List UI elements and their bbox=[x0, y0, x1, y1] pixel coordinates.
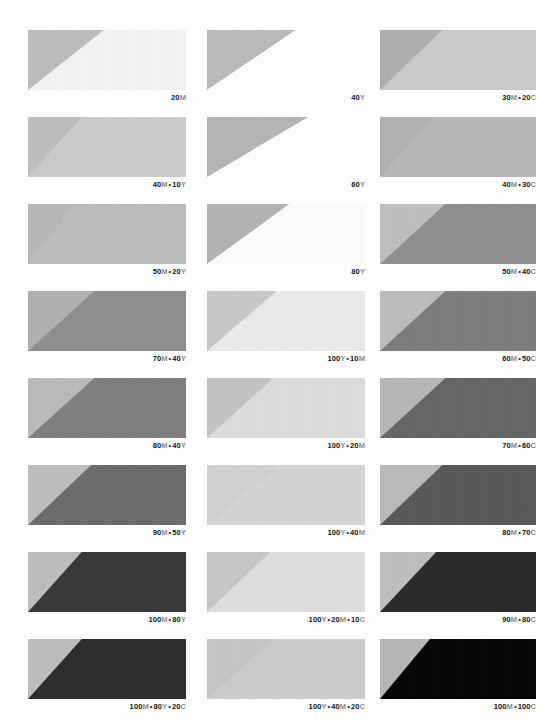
swatch-patch[interactable] bbox=[28, 291, 186, 351]
swatch-label: 80Y bbox=[207, 267, 365, 277]
swatch-cell[interactable]: 60Y bbox=[207, 117, 365, 190]
swatch-cell[interactable]: 100Y•20M bbox=[207, 378, 365, 451]
swatch-label: 50M•20Y bbox=[28, 267, 186, 277]
label-percent: 40 bbox=[351, 93, 360, 102]
swatch-label: 90M•50Y bbox=[28, 528, 186, 538]
label-percent: 40 bbox=[331, 702, 340, 711]
label-percent: 70 bbox=[502, 441, 511, 450]
swatch-patch[interactable] bbox=[28, 204, 186, 264]
swatch-cell[interactable]: 50M•40C bbox=[380, 204, 536, 277]
label-ink-letter: M bbox=[359, 354, 365, 363]
swatch-cell[interactable]: 40M•10Y bbox=[28, 117, 186, 190]
swatch-cell[interactable]: 40M•30C bbox=[380, 117, 536, 190]
swatch-label: 40M•10Y bbox=[28, 180, 186, 190]
swatch-cell[interactable]: 50M•20Y bbox=[28, 204, 186, 277]
swatch-patch[interactable] bbox=[380, 465, 536, 525]
swatch-cell[interactable]: 100Y•10M bbox=[207, 291, 365, 364]
swatch-patch[interactable] bbox=[207, 204, 365, 264]
swatch-patch[interactable] bbox=[207, 117, 365, 177]
label-percent: 100 bbox=[327, 441, 340, 450]
swatch-patch[interactable] bbox=[207, 378, 365, 438]
swatch-patch[interactable] bbox=[380, 378, 536, 438]
swatch-patch[interactable] bbox=[207, 465, 365, 525]
label-percent: 80 bbox=[172, 615, 181, 624]
swatch-label: 40M•30C bbox=[380, 180, 536, 190]
swatch-patch[interactable] bbox=[380, 117, 536, 177]
swatch-label: 80M•40Y bbox=[28, 441, 186, 451]
swatch-cell[interactable]: 70M•40Y bbox=[28, 291, 186, 364]
label-percent: 100 bbox=[309, 702, 322, 711]
swatch-label: 100Y•40M•20C bbox=[207, 702, 365, 712]
label-percent: 50 bbox=[502, 267, 511, 276]
label-ink-letter: Y bbox=[181, 615, 186, 624]
swatch-cell[interactable]: 90M•80C bbox=[380, 552, 536, 625]
label-percent: 10 bbox=[350, 354, 359, 363]
swatch-patch[interactable] bbox=[207, 30, 365, 90]
label-percent: 100 bbox=[327, 528, 340, 537]
chart-page: 20M40Y30M•20C40M•10Y60Y40M•30C50M•20Y80Y… bbox=[0, 0, 553, 727]
swatch-cell[interactable]: 100M•80Y•20C bbox=[28, 639, 186, 712]
swatch-patch[interactable] bbox=[28, 117, 186, 177]
label-ink-letter: Y bbox=[360, 267, 365, 276]
swatch-cell[interactable]: 40Y bbox=[207, 30, 365, 103]
label-percent: 100 bbox=[148, 615, 161, 624]
swatch-patch[interactable] bbox=[28, 465, 186, 525]
label-ink-letter: C bbox=[530, 441, 536, 450]
swatch-label: 100M•80Y•20C bbox=[28, 702, 186, 712]
label-ink-letter: M bbox=[161, 180, 167, 189]
label-percent: 50 bbox=[153, 267, 162, 276]
label-percent: 90 bbox=[502, 615, 511, 624]
label-ink-letter: Y bbox=[181, 267, 186, 276]
swatch-patch[interactable] bbox=[380, 552, 536, 612]
label-ink-letter: M bbox=[161, 441, 167, 450]
swatch-cell[interactable]: 100M•100C bbox=[380, 639, 536, 712]
swatch-cell[interactable]: 70M•60C bbox=[380, 378, 536, 451]
swatch-label: 90M•80C bbox=[380, 615, 536, 625]
label-ink-letter: C bbox=[530, 267, 536, 276]
swatch-cell[interactable]: 90M•50Y bbox=[28, 465, 186, 538]
label-ink-letter: M bbox=[180, 93, 186, 102]
swatch-cell[interactable]: 30M•20C bbox=[380, 30, 536, 103]
swatch-patch[interactable] bbox=[28, 378, 186, 438]
swatch-label: 100Y•20M•10C bbox=[207, 615, 365, 625]
label-ink-letter: M bbox=[359, 528, 365, 537]
swatch-patch[interactable] bbox=[207, 291, 365, 351]
swatch-cell[interactable]: 60M•50C bbox=[380, 291, 536, 364]
label-ink-letter: C bbox=[530, 702, 536, 711]
swatch-label: 100Y•10M bbox=[207, 354, 365, 364]
swatch-label: 70M•40Y bbox=[28, 354, 186, 364]
label-percent: 80 bbox=[153, 441, 162, 450]
label-ink-letter: C bbox=[180, 702, 186, 711]
swatch-cell[interactable]: 100Y•40M bbox=[207, 465, 365, 538]
swatch-patch[interactable] bbox=[28, 30, 186, 90]
label-percent: 40 bbox=[350, 528, 359, 537]
swatch-patch[interactable] bbox=[380, 639, 536, 699]
swatch-patch[interactable] bbox=[380, 204, 536, 264]
label-ink-letter: M bbox=[161, 528, 167, 537]
label-ink-letter: Y bbox=[321, 615, 326, 624]
label-percent: 20 bbox=[350, 441, 359, 450]
swatch-cell[interactable]: 20M bbox=[28, 30, 186, 103]
label-percent: 100 bbox=[494, 702, 507, 711]
label-ink-letter: C bbox=[530, 528, 536, 537]
swatch-patch[interactable] bbox=[380, 30, 536, 90]
swatch-patch[interactable] bbox=[28, 639, 186, 699]
swatch-patch[interactable] bbox=[380, 291, 536, 351]
label-ink-letter: M bbox=[507, 702, 513, 711]
label-ink-letter: M bbox=[359, 441, 365, 450]
label-percent: 100 bbox=[518, 702, 531, 711]
swatch-cell[interactable]: 80M•70C bbox=[380, 465, 536, 538]
swatch-patch[interactable] bbox=[207, 639, 365, 699]
label-percent: 40 bbox=[172, 441, 181, 450]
label-percent: 50 bbox=[172, 528, 181, 537]
swatch-patch[interactable] bbox=[28, 552, 186, 612]
label-ink-letter: M bbox=[142, 702, 148, 711]
swatch-cell[interactable]: 100M•80Y bbox=[28, 552, 186, 625]
swatch-cell[interactable]: 100Y•20M•10C bbox=[207, 552, 365, 625]
swatch-patch[interactable] bbox=[207, 552, 365, 612]
swatch-cell[interactable]: 80M•40Y bbox=[28, 378, 186, 451]
swatch-cell[interactable]: 100Y•40M•20C bbox=[207, 639, 365, 712]
swatch-cell[interactable]: 80Y bbox=[207, 204, 365, 277]
label-ink-letter: C bbox=[530, 180, 536, 189]
label-percent: 20 bbox=[331, 615, 340, 624]
